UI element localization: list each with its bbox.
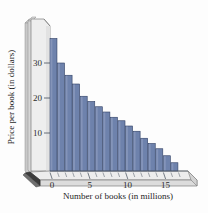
- x-tick-label: 5: [88, 180, 93, 190]
- bar: [126, 126, 133, 171]
- x-tick-label: 0: [50, 180, 55, 190]
- y-tick-label: 20: [33, 93, 43, 103]
- bar: [133, 131, 140, 171]
- x-axis-title: Number of books (in millions): [63, 191, 173, 201]
- bar: [103, 112, 110, 171]
- bar: [110, 117, 117, 171]
- bar: [58, 63, 65, 171]
- bar: [163, 156, 170, 171]
- bar: [141, 138, 148, 171]
- bar: [80, 96, 87, 171]
- bar: [148, 144, 155, 172]
- bar: [65, 75, 72, 171]
- bars-layer: [50, 39, 178, 172]
- x-tick-label: 15: [161, 180, 171, 190]
- bar: [50, 39, 57, 172]
- bar: [171, 163, 178, 171]
- bar: [95, 107, 102, 171]
- x-tick-label: 10: [123, 180, 133, 190]
- y-axis-title: Price per book (in dollars): [6, 50, 16, 144]
- bar: [118, 121, 125, 171]
- bar: [88, 102, 95, 172]
- bar: [156, 149, 163, 171]
- y-tick-label: 30: [33, 58, 43, 68]
- y-tick-label: 10: [33, 128, 43, 138]
- bar: [73, 84, 80, 171]
- bar-chart-svg: 10 20 30 051015 Number of books (in mill…: [0, 0, 208, 213]
- chart-figure: 10 20 30 051015 Number of books (in mill…: [0, 0, 208, 213]
